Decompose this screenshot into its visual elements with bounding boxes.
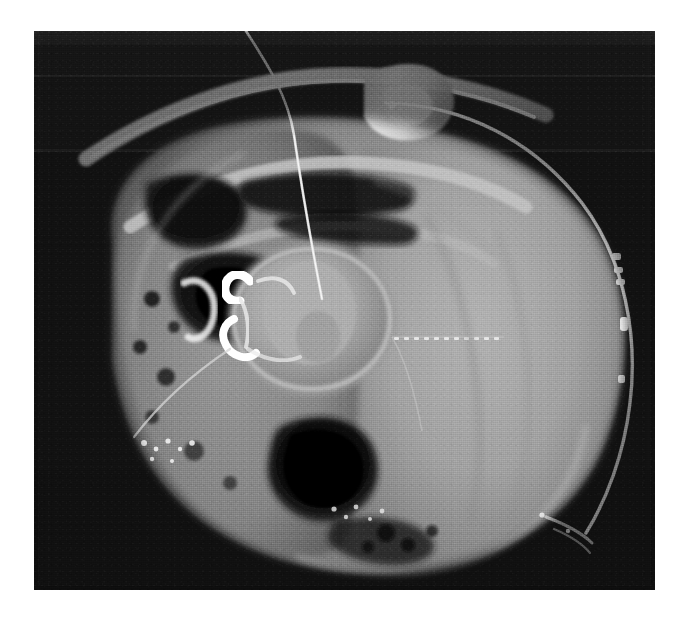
specimen-scan-graphic: [34, 31, 655, 590]
radiograph-plate: [34, 31, 655, 590]
radiograph-page: radiograph grayscale cross-sectional rad…: [0, 0, 687, 623]
central-ring-structure: [228, 243, 396, 395]
